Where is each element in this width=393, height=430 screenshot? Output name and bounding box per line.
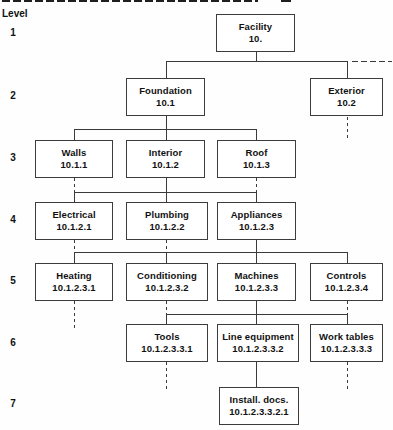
node-plumbing: Plumbing 10.1.2.2 (126, 202, 208, 240)
stem-appliances-up (256, 192, 257, 202)
level-number-4: 4 (8, 214, 18, 225)
level-column-heading: Level (2, 8, 28, 19)
level-number-2: 2 (8, 90, 18, 101)
stem-interior-down (166, 178, 167, 192)
stub-conditioning-dashed (166, 301, 167, 314)
node-label: Conditioning (137, 270, 197, 282)
node-code: 10.1 (156, 97, 175, 109)
stem-foundation-up (166, 61, 167, 78)
node-label: Controls (327, 270, 367, 282)
stem-work-tables-up (347, 314, 348, 324)
stem-heating-up (74, 252, 75, 263)
node-code: 10.1.3 (243, 159, 270, 171)
stem-appliances-down (256, 240, 257, 252)
node-appliances: Appliances 10.1.2.3 (217, 202, 296, 240)
bus-level2 (166, 61, 347, 62)
node-label: Work tables (319, 331, 374, 343)
stub-roof-dashed (256, 178, 257, 192)
stem-electrical-up (74, 192, 75, 202)
node-label: Line equipment (222, 331, 294, 343)
node-line-equipment: Line equipment 10.1.2.3.3.2 (217, 324, 299, 362)
stem-install-docs-up (256, 362, 257, 387)
stub-walls-dashed (74, 178, 75, 192)
node-label: Install. docs. (230, 394, 289, 406)
stub-tools-dashed (166, 362, 167, 392)
node-code: 10.1.1 (60, 159, 87, 171)
node-conditioning: Conditioning 10.1.2.3.2 (126, 263, 208, 301)
node-label: Machines (234, 270, 278, 282)
node-code: 10.1.2.3.3.1 (141, 343, 192, 355)
node-code: 10.1.2.3.3.2 (232, 343, 283, 355)
node-label: Heating (56, 270, 92, 282)
stem-plumbing-up (166, 192, 167, 202)
bus-level5 (74, 252, 347, 253)
node-code: 10.1.2.3.1 (52, 282, 95, 294)
node-code: 10. (249, 33, 263, 45)
node-work-tables: Work tables 10.1.2.3.3.3 (310, 324, 383, 362)
stub-heating-dashed (74, 301, 75, 330)
node-machines: Machines 10.1.2.3.3 (217, 263, 296, 301)
node-code: 10.1.2.2 (149, 221, 184, 233)
node-code: 10.1.2.3.4 (325, 282, 368, 294)
node-controls: Controls 10.1.2.3.4 (310, 263, 383, 301)
cropped-text-remnant (2, 0, 258, 2)
stem-controls-up (347, 252, 348, 263)
stub-electrical-dashed (74, 240, 75, 252)
bus-level4 (74, 192, 256, 193)
node-label: Foundation (139, 85, 192, 97)
stub-exterior-dashed (347, 117, 348, 138)
level-number-3: 3 (8, 152, 18, 163)
level-number-6: 6 (8, 337, 18, 348)
stem-walls-up (74, 129, 75, 140)
node-code: 10.1.2.3 (239, 221, 274, 233)
node-walls: Walls 10.1.1 (35, 140, 113, 178)
node-label: Tools (154, 331, 179, 343)
node-label: Interior (149, 147, 183, 159)
node-code: 10.1.2.3.3 (235, 282, 278, 294)
stem-conditioning-up (166, 252, 167, 263)
level-number-5: 5 (8, 275, 18, 286)
node-label: Electrical (52, 209, 95, 221)
stem-machines-up (256, 252, 257, 263)
stem-tools-up (166, 314, 167, 324)
node-label: Roof (245, 147, 267, 159)
node-label: Facility (239, 21, 273, 33)
node-heating: Heating 10.1.2.3.1 (35, 263, 113, 301)
node-label: Exterior (328, 85, 365, 97)
bus-level2-continued-dashed (352, 61, 392, 62)
node-interior: Interior 10.1.2 (126, 140, 205, 178)
wbs-tree-diagram: Level 1 2 3 4 5 6 7 Facility 10. (0, 0, 393, 430)
stub-plumbing-dashed (166, 240, 167, 252)
node-electrical: Electrical 10.1.2.1 (35, 202, 113, 240)
cropped-text-remnant-mark (281, 0, 291, 2)
stem-machines-down (256, 301, 257, 314)
node-label: Walls (62, 147, 87, 159)
node-foundation: Foundation 10.1 (126, 78, 205, 116)
node-install-docs: Install. docs. 10.1.2.3.3.2.1 (219, 387, 299, 425)
node-exterior: Exterior 10.2 (310, 78, 383, 116)
node-code: 10.2 (337, 97, 356, 109)
node-facility: Facility 10. (216, 14, 295, 52)
node-label: Appliances (231, 209, 283, 221)
stem-foundation-down (166, 116, 167, 129)
node-code: 10.1.2.3.3.2.1 (229, 406, 289, 418)
node-code: 10.1.2.1 (56, 221, 91, 233)
level-number-1: 1 (8, 27, 18, 38)
bus-level3 (74, 129, 256, 130)
node-code: 10.1.2.3.2 (145, 282, 188, 294)
stub-controls-dashed (347, 301, 348, 314)
stem-interior-up (166, 129, 167, 140)
node-code: 10.1.2 (152, 159, 179, 171)
stem-line-equipment-up (256, 314, 257, 324)
level-number-7: 7 (8, 398, 18, 409)
node-label: Plumbing (145, 209, 189, 221)
node-roof: Roof 10.1.3 (217, 140, 296, 178)
node-tools: Tools 10.1.2.3.3.1 (126, 324, 208, 362)
stem-roof-up (256, 129, 257, 140)
stub-work-tables-dashed (347, 362, 348, 390)
node-code: 10.1.2.3.3.3 (321, 343, 372, 355)
stem-exterior-up (347, 61, 348, 78)
stem-facility-down (256, 52, 257, 61)
